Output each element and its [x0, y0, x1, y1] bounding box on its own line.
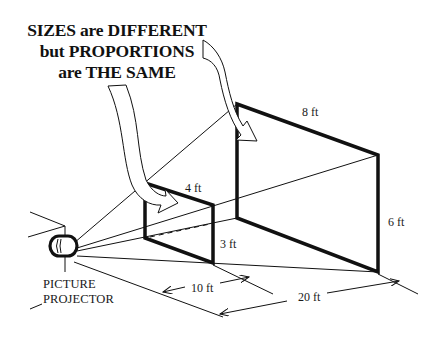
projector-label: PICTURE PROJECTOR [43, 277, 114, 307]
hidden-center-line [150, 224, 210, 237]
projection-rays [74, 104, 378, 317]
projector-label-line-1: PICTURE [43, 277, 114, 292]
projector-label-line-2: PROJECTOR [43, 292, 114, 307]
large-frame-width-label: 8 ft [302, 106, 318, 119]
projector-proportion-diagram: SIZES are DIFFERENT but PROPORTIONS are … [0, 0, 441, 342]
headline-line-2: but PROPORTIONS [14, 41, 220, 62]
small-frame-distance-label: 10 ft [191, 282, 213, 295]
callout-arrow-small-frame [108, 85, 178, 213]
large-frame-distance-label: 20 ft [298, 291, 320, 304]
large-frame [237, 104, 378, 272]
large-frame-height-label: 6 ft [388, 216, 404, 229]
projector-icon [50, 236, 77, 256]
small-frame-width-label: 4 ft [185, 182, 201, 195]
small-frame-height-label: 3 ft [220, 238, 236, 251]
headline-line-1: SIZES are DIFFERENT [14, 20, 220, 41]
headline: SIZES are DIFFERENT but PROPORTIONS are … [14, 20, 220, 83]
headline-line-3: are THE SAME [14, 62, 220, 83]
